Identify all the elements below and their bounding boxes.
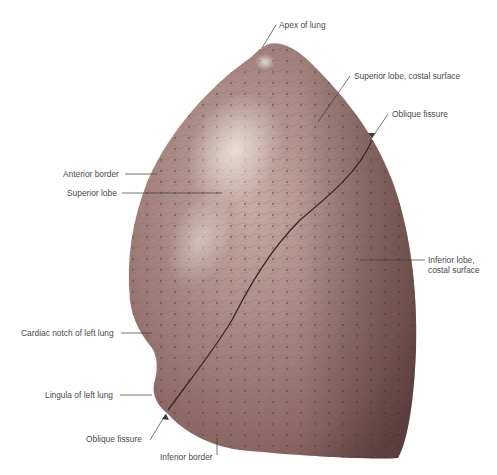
label-oblique-fissure-bottom: Oblique fissure — [86, 434, 142, 444]
label-inferior-lobe-line2: costal surface — [428, 265, 480, 275]
label-oblique-fissure-top: Oblique fissure — [392, 109, 448, 119]
label-superior-lobe-costal-surface: Superior lobe, costal surface — [354, 71, 460, 81]
label-lingula: Lingula of left lung — [45, 390, 113, 400]
label-inferior-lobe-line1: Inferior lobe, — [428, 255, 475, 265]
label-apex-of-lung: Apex of lung — [279, 20, 326, 30]
label-superior-lobe: Superior lobe — [67, 188, 117, 198]
label-cardiac-notch: Cardiac notch of left lung — [21, 328, 114, 338]
lung-diagram: Apex of lung Superior lobe, costal surfa… — [0, 0, 497, 475]
label-anterior-border: Anterior border — [63, 169, 119, 179]
label-inferior-border: Inferior border — [160, 452, 213, 462]
